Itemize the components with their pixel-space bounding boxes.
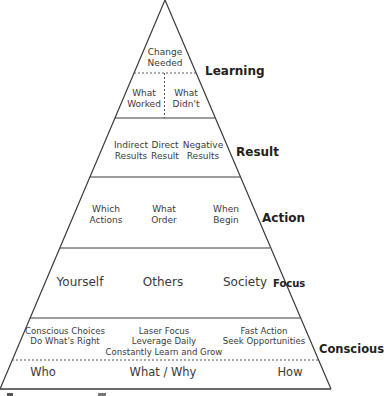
direct-result-text: Direct Result [151,140,179,162]
layer-label-result: Result [236,145,279,159]
laser-focus-text: Laser Focus Leverage Daily Constantly Le… [106,326,223,357]
what-worked-text: What Worked [127,88,161,110]
fast-action-text: Fast Action Seek Opportunities [223,326,305,347]
text-line: Results [114,151,148,162]
conscious-who: Who [30,366,56,380]
text-line: Negative [183,140,223,151]
focus-society: Society [223,275,267,289]
text-line: Indirect [114,140,148,151]
text-line: Results [183,151,223,162]
layer-label-learning: Learning [205,64,265,78]
text-line: Begin [213,215,239,226]
text-line: Order [151,215,177,226]
negative-results-text: Negative Results [183,140,223,162]
what-didnt-text: What Didn't [173,88,200,110]
what-order-text: What Order [151,204,177,226]
when-begin-text: When Begin [213,204,239,226]
text-line: Constantly Learn and Grow [106,347,223,357]
layer-label-conscious: Conscious [319,342,384,356]
conscious-choices-text: Conscious Choices Do What's Right [25,326,105,347]
text-line: Direct [151,140,179,151]
text-line: When [213,204,239,215]
text-line: Fast Action [223,326,305,336]
layer-label-focus: Focus [273,278,305,289]
text-line: Change [148,47,183,58]
text-line: Do What's Right [25,336,105,346]
text-line: Which [90,204,123,215]
change-needed-text: Change Needed [148,47,183,69]
text-line: What [127,88,161,99]
indirect-results-text: Indirect Results [114,140,148,162]
text-line: What [151,204,177,215]
which-actions-text: Which Actions [90,204,123,226]
text-line: Worked [127,99,161,110]
text-line: Conscious Choices [25,326,105,336]
layer-label-action: Action [262,211,305,225]
focus-others: Others [143,275,183,289]
conscious-how: How [277,366,302,380]
text-line: Didn't [173,99,200,110]
focus-yourself: Yourself [57,275,104,289]
conscious-what-why: What / Why [130,366,197,380]
text-line: Seek Opportunities [223,336,305,346]
text-line: Actions [90,215,123,226]
text-line: What [173,88,200,99]
text-line: Needed [148,58,183,69]
text-line: Result [151,151,179,162]
text-line: Laser Focus [106,326,223,336]
text-line: Leverage Daily [106,336,223,346]
